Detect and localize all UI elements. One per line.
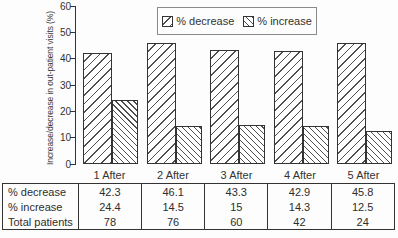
table-row: % decrease42.346.143.342.945.8 [3, 184, 395, 200]
decrease-hatch-swatch-icon [162, 16, 173, 27]
x-axis-label: 1 After [82, 169, 137, 181]
x-axis-label: 3 After [209, 169, 264, 181]
legend-item-decrease: % decrease [162, 15, 234, 27]
table-cell: 76 [142, 214, 205, 230]
summary-table: % decrease42.346.143.342.945.8% increase… [2, 183, 395, 230]
increase-hatch-swatch-icon [243, 16, 254, 27]
bar-chart: Increase/decrease in out-patient visits … [0, 0, 398, 184]
y-tick-label: 0 [46, 159, 71, 170]
table-cell: 42.9 [268, 184, 331, 200]
row-label-cell: % increase [3, 199, 79, 214]
bar-decrease [83, 53, 112, 164]
y-tick-label: 60 [46, 1, 71, 12]
legend-label-increase: % increase [257, 15, 311, 27]
figure: Increase/decrease in out-patient visits … [0, 0, 398, 238]
bar-increase [239, 125, 265, 165]
bar-decrease [147, 43, 176, 164]
y-tick-label: 20 [46, 106, 71, 117]
x-axis-label: 5 After [336, 169, 391, 181]
y-tick-label: 40 [46, 53, 71, 64]
y-tick-label: 10 [46, 132, 71, 143]
bar-decrease [210, 50, 239, 164]
table-cell: 24.4 [78, 199, 141, 214]
table-cell: 43.3 [205, 184, 268, 200]
table-row: % increase24.414.51514.312.5 [3, 199, 395, 214]
legend-label-decrease: % decrease [176, 15, 234, 27]
table-cell: 14.3 [268, 199, 331, 214]
legend-item-increase: % increase [243, 15, 311, 27]
table-cell: 60 [205, 214, 268, 230]
bar-decrease [337, 43, 366, 164]
table-cell: 46.1 [142, 184, 205, 200]
x-axis-label: 4 After [273, 169, 328, 181]
bar-increase [112, 100, 138, 164]
table-cell: 24 [331, 214, 394, 230]
bar-increase [366, 131, 392, 164]
table-cell: 14.5 [142, 199, 205, 214]
table-cell: 12.5 [331, 199, 394, 214]
table-cell: 42.3 [78, 184, 141, 200]
table-body: % decrease42.346.143.342.945.8% increase… [3, 184, 395, 230]
table-cell: 78 [78, 214, 141, 230]
x-axis-label: 2 After [146, 169, 201, 181]
y-tick-label: 50 [46, 27, 71, 38]
table-row: Total patients7876604224 [3, 214, 395, 230]
bar-increase [176, 126, 202, 164]
y-tick-label: 30 [46, 80, 71, 91]
row-label-cell: % decrease [3, 184, 79, 200]
table-cell: 45.8 [331, 184, 394, 200]
legend: % decrease % increase [157, 7, 317, 35]
row-label-cell: Total patients [3, 214, 79, 230]
table-cell: 15 [205, 199, 268, 214]
bar-decrease [274, 51, 303, 164]
bar-increase [303, 126, 329, 164]
table-cell: 42 [268, 214, 331, 230]
